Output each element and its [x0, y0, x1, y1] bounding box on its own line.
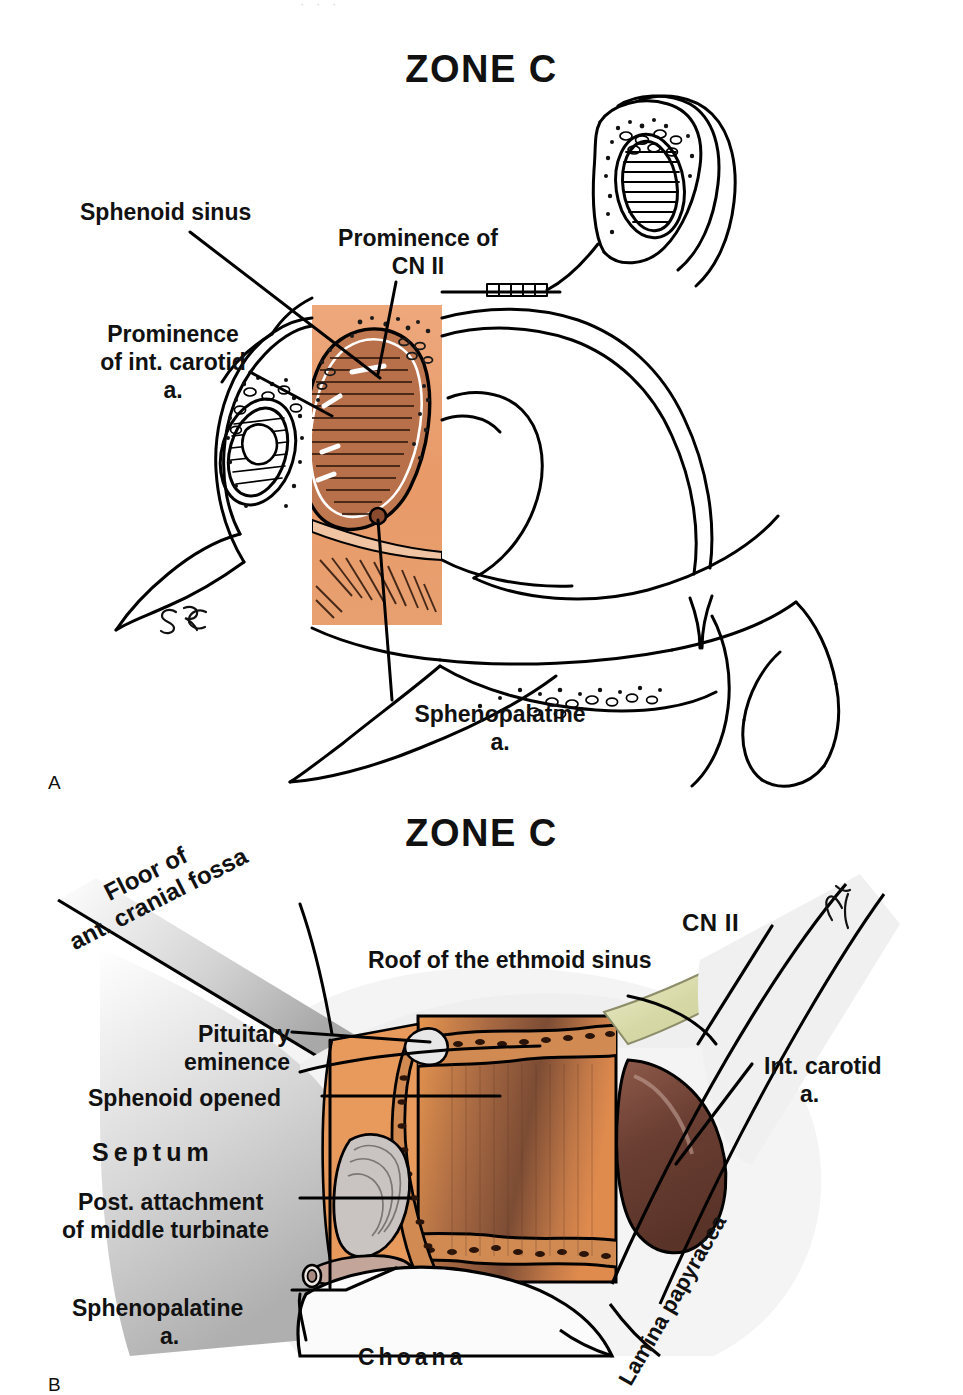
- label-pituitary-eminence-line1: Pituitary: [100, 1022, 290, 1048]
- label-prominence-carotid-line1: Prominence: [58, 322, 288, 348]
- artist-signature-a: [161, 607, 206, 633]
- label-prominence-cn2-line1: Prominence of: [318, 226, 518, 252]
- label-sphenopalatine-b-line1: Sphenopalatine: [72, 1296, 243, 1322]
- label-int-carotid-line2: a.: [800, 1082, 819, 1108]
- label-prominence-carotid-line3: a.: [58, 378, 288, 404]
- label-int-carotid-line1: Int. carotid: [764, 1054, 882, 1080]
- label-prominence-cn2-line2: CN II: [318, 254, 518, 280]
- panel-b-title: ZONE C: [0, 812, 963, 855]
- label-post-attachment-line1: Post. attachment: [78, 1190, 263, 1216]
- label-roof-ethmoid-sinus: Roof of the ethmoid sinus: [368, 948, 652, 974]
- pituitary-eminence-bulge: [405, 1028, 448, 1064]
- label-sphenopalatine-b-line2: a.: [160, 1324, 179, 1350]
- label-prominence-carotid-line2: of int. carotid: [58, 350, 288, 376]
- label-sphenopalatine-a-line1: Sphenopalatine: [380, 702, 620, 728]
- panel-b-marker: B: [48, 1374, 61, 1395]
- label-sphenoid-opened: Sphenoid opened: [88, 1086, 281, 1112]
- label-sphenoid-sinus-a: Sphenoid sinus: [80, 200, 251, 226]
- label-choana: Choana: [358, 1344, 466, 1371]
- panel-a-marker: A: [48, 772, 61, 794]
- label-sphenopalatine-a-line2: a.: [380, 730, 620, 756]
- label-pituitary-eminence-line2: eminence: [100, 1050, 290, 1076]
- label-cn2-b: CN II: [682, 910, 739, 937]
- label-septum: Septum: [92, 1138, 214, 1167]
- label-post-attachment-line2: of middle turbinate: [62, 1218, 269, 1244]
